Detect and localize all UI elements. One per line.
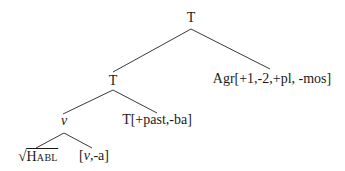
node-v-a: [v,-a] (79, 148, 109, 164)
radical-icon: √ (18, 148, 26, 164)
node-label: T[+past,-ba] (122, 112, 192, 127)
node-label: T (187, 10, 196, 25)
syntax-tree-diagram: T T Agr[+1,-2,+pl, -mos] v T[+past,-ba] … (0, 0, 345, 171)
node-t-past: T[+past,-ba] (122, 112, 192, 128)
node-label: Agr[+1,-2,+pl, -mos] (213, 71, 331, 86)
node-left-t: T (109, 73, 118, 89)
node-label: T (109, 73, 118, 88)
node-little-v: v (61, 113, 67, 129)
root-label: Habl (26, 148, 57, 164)
node-agr: Agr[+1,-2,+pl, -mos] (213, 71, 331, 87)
edge-v-to-v-a (64, 133, 92, 148)
edge-v-to-root-habl (36, 133, 64, 148)
edge-left-t-to-t-past (113, 90, 157, 113)
node-root-t: T (187, 10, 196, 26)
edge-root-to-left-t (113, 29, 191, 72)
edge-left-t-to-v (63, 90, 113, 114)
node-label: v (61, 113, 67, 128)
node-root-habl: √Habl (18, 148, 58, 165)
root-symbol: √Habl (18, 148, 58, 165)
feature-rest: ,-a] (90, 148, 109, 163)
edge-root-to-agr (191, 29, 270, 69)
